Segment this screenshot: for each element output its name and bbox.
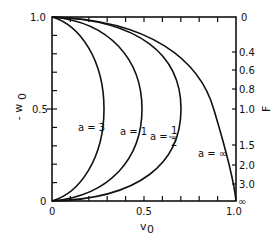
y-axis-title: - w 0: [12, 93, 29, 120]
r-tick-08: 0.8: [239, 84, 255, 95]
svg-text:v: v: [140, 220, 147, 233]
x-tick-0: 0: [49, 206, 55, 217]
r-tick-06: 0.6: [239, 65, 255, 76]
label-a-half: a = 1 2: [150, 125, 177, 148]
curves: [52, 17, 236, 201]
right-axis-title: F: [260, 106, 273, 112]
chart: a = 3 a = 1 a = 1 2 a = ∞ 1.0 0.5 0 - w …: [0, 0, 280, 242]
svg-text:1: 1: [171, 125, 177, 136]
svg-text:- w: - w: [12, 104, 25, 120]
y-tick-05: 0.5: [32, 104, 48, 115]
r-tick-inf: ∞: [238, 196, 246, 207]
r-tick-0: 0: [241, 12, 247, 23]
r-tick-15: 1.5: [239, 140, 255, 151]
x-tick-05: 0.5: [136, 206, 152, 217]
r-tick-20: 2.0: [239, 160, 255, 171]
curve-a-infinity: [52, 17, 236, 201]
r-tick-30: 3.0: [239, 179, 255, 190]
svg-text:0: 0: [16, 93, 29, 100]
svg-text:2: 2: [171, 137, 177, 148]
y-tick-1: 1.0: [30, 12, 46, 23]
label-a-infinity: a = ∞: [198, 148, 227, 159]
y-tick-0: 0: [40, 196, 46, 207]
plot-frame: [52, 17, 236, 201]
curve-a-3: [52, 17, 104, 201]
svg-text:a =: a =: [150, 131, 168, 142]
x-axis-title: v 0: [140, 220, 154, 236]
label-a-1: a = 1: [120, 126, 147, 137]
label-a-3: a = 3: [78, 122, 105, 133]
r-tick-04: 0.4: [239, 47, 255, 58]
svg-text:0: 0: [147, 223, 154, 236]
x-tick-1: 1.0: [226, 206, 242, 217]
curve-a-1: [52, 17, 142, 201]
r-tick-10: 1.0: [239, 104, 255, 115]
